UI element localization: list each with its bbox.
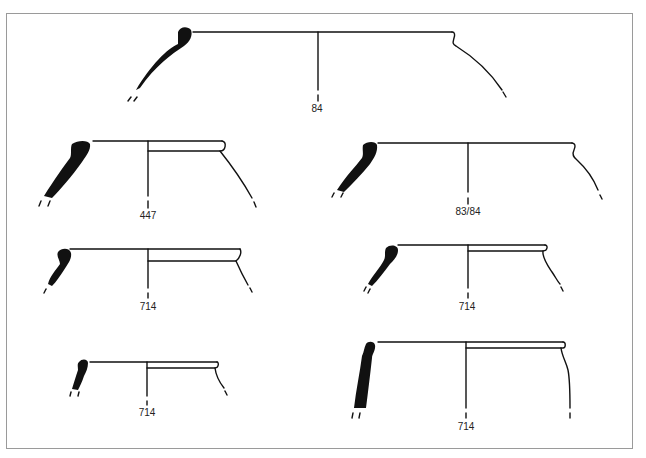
- vessel-label-714-d: 714: [458, 422, 475, 432]
- pottery-profiles-drawing: [0, 0, 646, 458]
- vessel-714-a-profile: [44, 249, 252, 298]
- vessel-84-profile: [128, 27, 506, 101]
- vessel-447-profile: [39, 141, 256, 208]
- vessel-label-714-a: 714: [140, 302, 157, 312]
- vessel-label-714-b: 714: [459, 302, 476, 312]
- vessel-label-83-84: 83/84: [455, 207, 480, 217]
- vessel-label-447: 447: [140, 211, 157, 221]
- vessel-714-c-profile: [70, 359, 227, 405]
- vessel-label-714-c: 714: [139, 408, 156, 418]
- vessel-label-84: 84: [311, 104, 322, 114]
- vessel-714-d-profile: [352, 342, 570, 418]
- vessel-83-84-profile: [332, 142, 602, 204]
- vessel-714-b-profile: [364, 245, 563, 298]
